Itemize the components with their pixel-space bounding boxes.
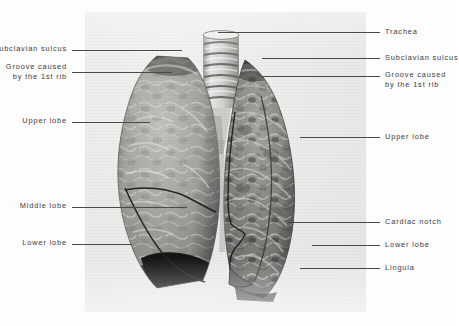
label-trachea-right: Trachea [385, 27, 455, 37]
leader-upper-lobe-right [300, 137, 380, 138]
label-groove-1st-rib-right: Groove caused by the 1st rib [385, 70, 455, 89]
leader-subclavian-sulcus-right [262, 58, 380, 59]
label-upper-lobe-left: Upper lobe [0, 116, 67, 126]
lung-photograph-plate [85, 12, 366, 312]
label-cardiac-notch-right: Cardiac notch [385, 217, 455, 227]
leader-upper-lobe-left [72, 122, 150, 123]
leader-groove-1st-rib-right [262, 76, 380, 77]
label-groove-1st-rib-left: Groove caused by the 1st rib [0, 62, 67, 81]
leader-lower-lobe-left [72, 244, 132, 245]
label-subclavian-sulcus-left: Subclavian sulcus [0, 44, 67, 54]
leader-cardiac-notch-right [288, 222, 380, 223]
label-lower-lobe-right: Lower lobe [385, 240, 455, 250]
label-upper-lobe-right: Upper lobe [385, 132, 455, 142]
label-subclavian-sulcus-right: Subclavian sulcus [385, 53, 455, 63]
leader-middle-lobe-left [72, 207, 187, 208]
leader-groove-1st-rib-left [72, 72, 172, 73]
leader-trachea-right [218, 32, 380, 33]
label-lingula-right: Lingula [385, 263, 455, 273]
leader-lower-lobe-right [312, 245, 380, 246]
leader-lingula-right [300, 268, 380, 269]
label-lower-lobe-left: Lower lobe [0, 238, 67, 248]
label-middle-lobe-left: Middle lobe [0, 201, 67, 211]
leader-subclavian-sulcus-left [72, 50, 182, 51]
plate-edge-fade [85, 12, 366, 312]
